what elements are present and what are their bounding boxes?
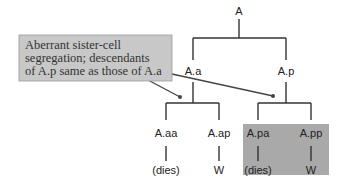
fate-a-ap: W bbox=[214, 164, 225, 176]
node-root: A bbox=[235, 5, 243, 17]
node-a-aa: A.aa bbox=[155, 127, 179, 139]
fate-a-pa: (dies) bbox=[244, 164, 272, 176]
callout-line-3: of A.p same as those of A.a bbox=[25, 64, 162, 78]
fate-a-pp: W bbox=[306, 164, 317, 176]
node-a-ap: A.ap bbox=[208, 127, 231, 139]
node-a-p: A.p bbox=[278, 65, 295, 77]
callout-line-2: segregation; descendants bbox=[25, 51, 150, 65]
node-a-pa: A.pa bbox=[247, 127, 271, 139]
node-a-a: A.a bbox=[185, 65, 202, 77]
pointer-dot-left bbox=[178, 95, 182, 99]
node-a-pp: A.pp bbox=[300, 127, 323, 139]
callout-line-1: Aberrant sister-cell bbox=[25, 38, 121, 52]
cell-lineage-diagram: Aberrant sister-cell segregation; descen… bbox=[0, 0, 345, 188]
pointer-dot-right bbox=[271, 94, 275, 98]
fate-a-aa: (dies) bbox=[152, 164, 180, 176]
